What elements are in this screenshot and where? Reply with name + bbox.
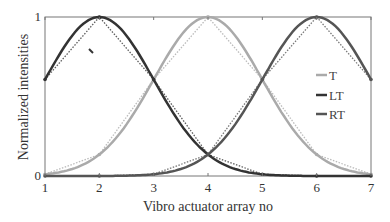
series-lt-linear xyxy=(45,17,371,176)
x-tick-label: 5 xyxy=(259,180,266,195)
data-point xyxy=(206,153,210,157)
x-tick-label: 1 xyxy=(42,180,49,195)
data-point xyxy=(43,78,47,82)
legend: T LT RT xyxy=(316,68,345,122)
x-tick-label: 7 xyxy=(368,180,375,195)
x-tick-label: 2 xyxy=(96,180,103,195)
data-point xyxy=(315,153,319,157)
series-rt-linear xyxy=(45,17,371,176)
data-point xyxy=(369,78,373,82)
y-axis-ticks: 01 xyxy=(35,9,42,183)
legend-label-t: T xyxy=(329,68,337,83)
legend-label-lt: LT xyxy=(329,88,344,103)
y-tick-label: 1 xyxy=(35,9,42,24)
x-axis-ticks: 1234567 xyxy=(42,17,375,195)
x-tick-label: 6 xyxy=(313,180,320,195)
series-rt-curve xyxy=(45,17,371,176)
data-point xyxy=(261,78,265,82)
line-chart: 1234567 01 Vibro actuator array no Norma… xyxy=(0,0,390,222)
x-tick-label: 4 xyxy=(205,180,212,195)
series-rt xyxy=(43,15,373,178)
data-point xyxy=(152,78,156,82)
legend-label-rt: RT xyxy=(329,107,345,122)
data-point xyxy=(98,153,102,157)
y-tick-label: 0 xyxy=(35,168,42,183)
series-lt-curve xyxy=(45,17,371,176)
stray-mark xyxy=(89,49,93,53)
x-axis-label: Vibro actuator array no xyxy=(143,199,273,214)
series-layer xyxy=(43,15,373,178)
y-axis-label: Normalized intensities xyxy=(16,34,31,160)
x-tick-label: 3 xyxy=(150,180,157,195)
plot-frame xyxy=(45,17,371,176)
